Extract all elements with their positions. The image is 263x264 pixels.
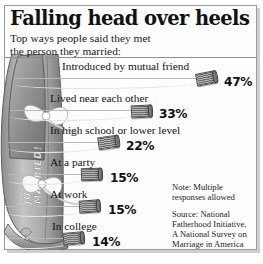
data-row: Lived near each other 33%	[0, 90, 263, 122]
ribbon-string	[14, 78, 200, 89]
header: Falling head over heels Top ways people …	[10, 8, 248, 57]
source-line-1: Source: National	[172, 209, 254, 219]
row-percent: 47%	[224, 75, 252, 89]
infographic-root: Falling head over heels Top ways people …	[0, 0, 263, 264]
ribbon-string	[10, 110, 135, 121]
row-percent: 15%	[110, 171, 138, 185]
tin-can-marker	[62, 231, 83, 246]
row-percent: 15%	[108, 203, 136, 217]
data-row: In high school or lower level 22%	[0, 122, 263, 154]
tin-can-marker	[97, 135, 119, 151]
notes-column: Note: Multiple responses allowed Source:…	[172, 182, 254, 249]
tin-can-marker	[81, 168, 101, 182]
row-percent: 22%	[126, 139, 154, 153]
page-subtitle: Top ways people said they met the person…	[10, 32, 248, 57]
tin-can-marker	[131, 104, 152, 118]
row-label: Introduced by mutual friend	[62, 60, 189, 72]
source-line-3: A National Survey on	[172, 229, 254, 239]
row-percent: 14%	[92, 235, 120, 249]
note-block: Note: Multiple responses allowed	[172, 182, 254, 202]
row-label: At work	[50, 188, 87, 200]
row-percent: 33%	[159, 107, 187, 121]
ribbon-string	[8, 174, 84, 185]
page-title: Falling head over heels	[10, 8, 248, 30]
source-block: Source: National Fatherhood Initiative, …	[172, 209, 254, 249]
ribbon-string	[6, 206, 82, 217]
ribbon-string	[8, 142, 100, 153]
source-line-2: Fatherhood Initiative,	[172, 219, 254, 229]
row-label: Lived near each other	[50, 92, 148, 104]
subtitle-line-2: the person they married:	[10, 45, 248, 58]
tin-can-marker	[195, 70, 217, 87]
note-line-2: responses allowed	[172, 192, 254, 202]
ribbon-string	[8, 238, 68, 249]
note-line-1: Note: Multiple	[172, 182, 254, 192]
subtitle-line-1: Top ways people said they met	[10, 32, 248, 45]
row-label: At a party	[50, 156, 95, 168]
tin-can-marker	[79, 199, 100, 213]
data-row: Introduced by mutual friend 47%	[0, 58, 263, 90]
row-label: In college	[52, 220, 97, 232]
source-line-4: Marriage in America	[172, 239, 254, 249]
